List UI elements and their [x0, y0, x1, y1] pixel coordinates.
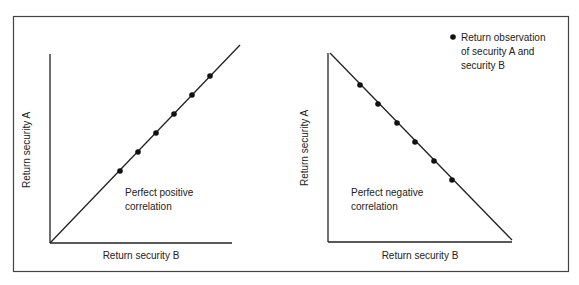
- data-point: [394, 120, 400, 126]
- data-point: [207, 73, 213, 79]
- x-axis-label: Return security B: [382, 250, 459, 261]
- data-point: [135, 149, 141, 155]
- negative-correlation-panel: Return security A Return security B Perf…: [299, 53, 512, 261]
- caption-line1: Perfect negative: [351, 187, 424, 198]
- data-point: [431, 158, 437, 164]
- y-axis-label: Return security A: [21, 112, 32, 188]
- data-point: [171, 111, 177, 117]
- data-point: [375, 101, 381, 107]
- data-point: [449, 177, 455, 183]
- y-axis-label: Return security A: [299, 110, 310, 186]
- caption-line1: Perfect positive: [125, 187, 194, 198]
- data-point: [412, 139, 418, 145]
- x-axis-label: Return security B: [103, 250, 180, 261]
- data-point: [189, 92, 195, 98]
- legend-marker-icon: [450, 34, 456, 40]
- legend-line1: Return observation: [461, 32, 546, 43]
- legend-line2: of security A and: [461, 46, 534, 57]
- positive-correlation-panel: Return security A Return security B Perf…: [21, 45, 240, 261]
- data-point: [357, 82, 363, 88]
- data-point: [117, 168, 123, 174]
- caption-line2: correlation: [351, 201, 398, 212]
- data-point: [153, 130, 159, 136]
- correlation-diagram: Return security A Return security B Perf…: [0, 0, 579, 285]
- legend-line3: security B: [461, 60, 505, 71]
- caption-line2: correlation: [125, 201, 172, 212]
- legend: Return observation of security A and sec…: [450, 32, 545, 71]
